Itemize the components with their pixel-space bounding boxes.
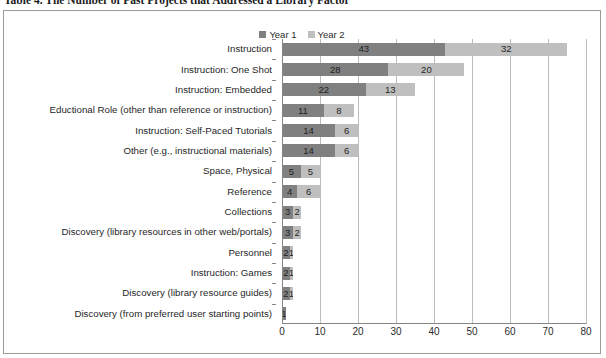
bar-value-label: 3 (285, 228, 290, 238)
bar-segment-year-2[interactable]: 2 (293, 226, 301, 239)
category-tick (272, 141, 276, 142)
bar-segment-year-1[interactable]: 22 (282, 83, 366, 96)
bar-row[interactable]: 46 (282, 185, 586, 198)
bar-value-label: 2 (295, 207, 300, 217)
bar-segment-year-1[interactable]: 43 (282, 43, 445, 56)
bar-segment-year-1[interactable]: 5 (282, 165, 301, 178)
legend-swatch-year-2 (308, 31, 315, 38)
plot-area: 433228202213118146146554632322121211 (282, 39, 586, 324)
bar-row[interactable]: 55 (282, 165, 586, 178)
category-label: Eductional Role (other than reference or… (50, 105, 272, 115)
category-label: Instruction: Self-Paced Tutorials (135, 126, 272, 136)
category-label: Discovery (library resource guides) (122, 288, 272, 298)
bar-segment-year-2[interactable]: 6 (335, 144, 358, 157)
bar-value-label: 2 (283, 268, 288, 278)
bar-segment-year-2[interactable]: 2 (293, 206, 301, 219)
x-axis-tick-labels: 01020304050607080 (282, 326, 586, 342)
x-tick-60: 60 (504, 326, 515, 337)
bar-value-label: 20 (421, 65, 432, 75)
bar-value-label: 1 (290, 268, 294, 278)
bar-value-label: 2 (283, 248, 288, 258)
category-axis-labels: InstructionInstruction: One ShotInstruct… (4, 39, 276, 324)
category-tick (272, 222, 276, 223)
bar-segment-year-2[interactable]: 20 (388, 63, 464, 76)
category-tick (272, 263, 276, 264)
category-label: Instruction: Games (191, 268, 272, 278)
bar-value-label: 13 (385, 85, 396, 95)
bar-segment-year-1[interactable]: 3 (282, 226, 293, 239)
bar-segment-year-1[interactable]: 14 (282, 144, 335, 157)
bar-row[interactable]: 21 (282, 287, 586, 300)
category-tick (272, 243, 276, 244)
bar-value-label: 8 (336, 106, 341, 116)
category-label: Instruction: Embedded (175, 85, 272, 95)
bar-segment-year-2[interactable]: 1 (290, 246, 294, 259)
bar-value-label: 1 (282, 309, 286, 319)
bar-value-label: 4 (287, 187, 292, 197)
bar-segment-year-1[interactable]: 2 (282, 287, 290, 300)
category-label: Instruction: One Shot (181, 65, 272, 75)
bar-value-label: 6 (344, 126, 349, 136)
bar-segment-year-1[interactable]: 28 (282, 63, 388, 76)
bar-segment-year-1[interactable]: 2 (282, 246, 290, 259)
bar-value-label: 3 (285, 207, 290, 217)
category-tick (272, 80, 276, 81)
bar-row[interactable]: 21 (282, 246, 586, 259)
category-label: Collections (225, 207, 272, 217)
bar-row[interactable]: 32 (282, 226, 586, 239)
category-tick (272, 202, 276, 203)
bar-row[interactable]: 4332 (282, 43, 586, 56)
category-tick (272, 304, 276, 305)
bar-segment-year-1[interactable]: 2 (282, 267, 290, 280)
bar-segment-year-1[interactable]: 14 (282, 124, 335, 137)
x-tick-70: 70 (542, 326, 553, 337)
bar-row[interactable]: 2213 (282, 83, 586, 96)
x-tick-0: 0 (279, 326, 285, 337)
category-tick (272, 59, 276, 60)
bar-value-label: 6 (306, 187, 311, 197)
category-tick (272, 161, 276, 162)
bar-segment-year-2[interactable]: 13 (366, 83, 415, 96)
bar-segment-year-2[interactable]: 5 (301, 165, 320, 178)
category-tick (272, 120, 276, 121)
bar-value-label: 6 (344, 146, 349, 156)
bar-row[interactable]: 32 (282, 206, 586, 219)
bar-row[interactable]: 1 (282, 307, 586, 320)
category-label: Discovery (library resources in other we… (61, 227, 272, 237)
bar-value-label: 22 (319, 85, 330, 95)
category-tick (272, 283, 276, 284)
bar-segment-year-2[interactable]: 6 (335, 124, 358, 137)
category-label: Space, Physical (203, 166, 272, 176)
legend-swatch-year-1 (259, 31, 266, 38)
category-label: Discovery (from preferred user starting … (74, 309, 272, 319)
bar-segment-year-2[interactable]: 32 (445, 43, 567, 56)
bar-row[interactable]: 146 (282, 144, 586, 157)
category-label: Instruction (227, 44, 272, 54)
bar-value-label: 28 (330, 65, 341, 75)
bar-row[interactable]: 2820 (282, 63, 586, 76)
bar-rows: 433228202213118146146554632322121211 (282, 39, 586, 324)
bar-segment-year-1[interactable]: 3 (282, 206, 293, 219)
bar-segment-year-2[interactable]: 1 (290, 267, 294, 280)
bar-row[interactable]: 146 (282, 124, 586, 137)
table-caption: Table 4. The Number of Past Projects tha… (4, 0, 602, 7)
bar-segment-year-1[interactable]: 1 (282, 307, 286, 320)
bar-row[interactable]: 21 (282, 267, 586, 280)
bar-segment-year-1[interactable]: 4 (282, 185, 297, 198)
bar-value-label: 43 (358, 44, 369, 54)
bar-segment-year-2[interactable]: 8 (324, 104, 354, 117)
bar-value-label: 5 (289, 167, 294, 177)
x-tick-80: 80 (580, 326, 591, 337)
category-label: Reference (227, 187, 272, 197)
bar-segment-year-2[interactable]: 6 (297, 185, 320, 198)
bar-row[interactable]: 118 (282, 104, 586, 117)
bar-value-label: 14 (303, 146, 314, 156)
bar-segment-year-1[interactable]: 11 (282, 104, 324, 117)
x-tick-10: 10 (314, 326, 325, 337)
bar-value-label: 2 (283, 289, 288, 299)
x-tick-20: 20 (352, 326, 363, 337)
x-tick-30: 30 (390, 326, 401, 337)
bar-segment-year-2[interactable]: 1 (290, 287, 294, 300)
category-label: Other (e.g., instructional materials) (123, 146, 272, 156)
bar-value-label: 11 (298, 106, 308, 116)
